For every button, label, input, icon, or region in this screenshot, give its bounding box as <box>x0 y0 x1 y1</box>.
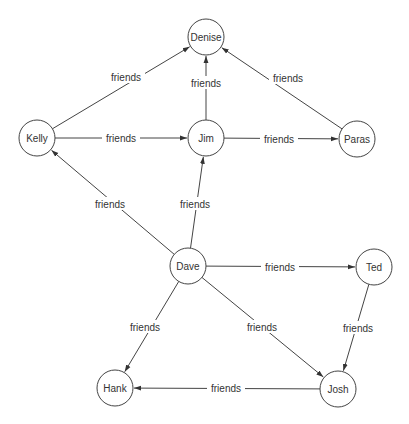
node-josh[interactable]: Josh <box>320 371 356 407</box>
edge-label: friends <box>247 322 277 333</box>
edge-label: friends <box>191 78 221 89</box>
edge-dave-to-hank: friends <box>125 281 179 371</box>
edge-josh-to-hank: friends <box>134 381 320 394</box>
edge-jim-to-denise: friends <box>187 56 225 120</box>
edge-ted-to-josh: friends <box>339 284 377 371</box>
edge-kelly-to-denise: friends <box>52 47 189 129</box>
node-label: Paras <box>344 134 370 145</box>
edge-arrow-line <box>52 47 189 129</box>
edge-label: friends <box>264 134 294 145</box>
edge-label: friends <box>95 199 125 210</box>
node-label: Josh <box>327 384 348 395</box>
node-label: Jim <box>198 133 214 144</box>
friendship-graph: friendsfriendsfriendsfriendsfriendsfrien… <box>0 0 409 424</box>
edge-paras-to-denise: friends <box>222 48 342 129</box>
node-hank[interactable]: Hank <box>97 370 133 406</box>
edge-dave-to-josh: friends <box>202 277 323 377</box>
graph-canvas: friendsfriendsfriendsfriendsfriendsfrien… <box>0 0 409 424</box>
edge-label: friends <box>130 322 160 333</box>
edge-dave-to-kelly: friends <box>51 150 174 254</box>
node-dave[interactable]: Dave <box>170 248 206 284</box>
node-label: Denise <box>190 32 222 43</box>
node-label: Dave <box>176 261 200 272</box>
node-paras[interactable]: Paras <box>339 121 375 157</box>
edge-label: friends <box>265 262 295 273</box>
node-label: Kelly <box>26 133 48 144</box>
node-label: Ted <box>366 262 382 273</box>
edge-label: friends <box>343 323 373 334</box>
edge-dave-to-ted: friends <box>206 260 355 273</box>
edge-label: friends <box>106 133 136 144</box>
edge-jim-to-paras: friends <box>224 132 338 145</box>
edge-label: friends <box>273 73 303 84</box>
edge-arrow-line <box>222 48 342 129</box>
edge-label: friends <box>211 383 241 394</box>
node-jim[interactable]: Jim <box>188 120 224 156</box>
edge-kelly-to-jim: friends <box>55 131 187 144</box>
edge-label: friends <box>111 72 141 83</box>
edges-layer: friendsfriendsfriendsfriendsfriendsfrien… <box>51 47 377 394</box>
node-denise[interactable]: Denise <box>188 19 224 55</box>
edge-label: friends <box>180 199 210 210</box>
node-kelly[interactable]: Kelly <box>19 120 55 156</box>
edge-dave-to-jim: friends <box>176 157 214 248</box>
node-ted[interactable]: Ted <box>356 249 392 285</box>
node-label: Hank <box>103 383 127 394</box>
